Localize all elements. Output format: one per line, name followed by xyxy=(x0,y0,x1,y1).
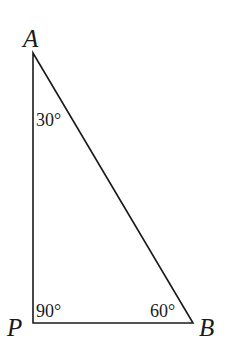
angle-label-a: 30° xyxy=(36,110,61,130)
angle-label-b: 60° xyxy=(150,301,175,321)
vertex-label-a: A xyxy=(21,25,39,52)
vertex-label-p: P xyxy=(6,314,22,341)
vertex-label-b: B xyxy=(199,314,214,341)
angle-label-p: 90° xyxy=(36,301,61,321)
triangle-diagram: A P B 30° 90° 60° xyxy=(0,0,234,351)
triangle-apb xyxy=(33,53,193,323)
